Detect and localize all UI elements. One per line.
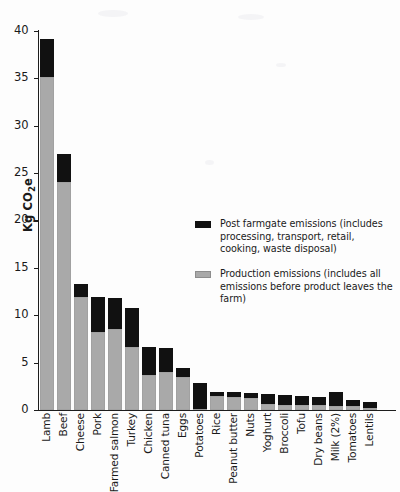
segment-production: [210, 396, 224, 410]
segment-post-farmgate: [329, 392, 343, 406]
x-tick-label: Dry beans: [313, 413, 324, 466]
chart-legend: Post farmgate emissions (includes proces…: [195, 218, 395, 318]
bar-canned-tuna: [159, 31, 173, 410]
x-tick-label: Eggs: [177, 413, 188, 438]
segment-post-farmgate: [312, 397, 326, 406]
y-tick-label: 10: [14, 310, 28, 322]
segment-post-farmgate: [142, 347, 156, 375]
segment-production: [57, 182, 71, 410]
x-tick-label: Yoghurt: [262, 413, 273, 452]
segment-production: [125, 347, 139, 410]
y-tick-label: 20: [14, 215, 28, 227]
legend-label-production: Production emissions (includes all emiss…: [220, 268, 395, 306]
segment-post-farmgate: [346, 400, 360, 407]
x-tick-label: Lamb: [41, 413, 52, 442]
bar-beef: [57, 31, 71, 410]
segment-production: [193, 409, 207, 410]
x-tick-label: Nuts: [245, 413, 256, 437]
segment-post-farmgate: [125, 308, 139, 348]
segment-post-farmgate: [74, 284, 88, 297]
scan-artifact: [238, 14, 264, 20]
legend-item-post-farmgate: Post farmgate emissions (includes proces…: [195, 218, 395, 256]
x-tick-label: Broccoli: [279, 413, 290, 454]
y-tick-label: 5: [21, 357, 28, 369]
x-tick-label: Chicken: [143, 413, 154, 454]
legend-swatch-production: [195, 271, 211, 278]
bar-cheese: [74, 31, 88, 410]
segment-production: [159, 372, 173, 410]
scan-artifact: [98, 10, 128, 17]
segment-production: [74, 297, 88, 410]
bar-chicken: [142, 31, 156, 410]
segment-production: [142, 375, 156, 410]
segment-production: [278, 405, 292, 410]
x-tick-label: Farmed salmon: [109, 413, 120, 492]
segment-production: [363, 408, 377, 410]
segment-production: [227, 397, 241, 410]
segment-production: [108, 329, 122, 410]
legend-item-production: Production emissions (includes all emiss…: [195, 268, 395, 306]
x-tick-label: Lentils: [364, 413, 375, 446]
segment-production: [176, 377, 190, 410]
x-tick-label: Milk (2%): [330, 413, 341, 461]
segment-production: [312, 405, 326, 410]
x-tick-label: Canned tuna: [160, 413, 171, 479]
segment-post-farmgate: [40, 39, 54, 78]
bar-turkey: [125, 31, 139, 410]
segment-post-farmgate: [261, 394, 275, 404]
segment-post-farmgate: [108, 298, 122, 329]
legend-swatch-post-farmgate: [195, 221, 211, 228]
bar-lamb: [40, 31, 54, 410]
legend-label-post-farmgate: Post farmgate emissions (includes proces…: [220, 218, 395, 256]
segment-post-farmgate: [193, 383, 207, 409]
bar-eggs: [176, 31, 190, 410]
segment-post-farmgate: [91, 297, 105, 332]
x-tick-label: Peanut butter: [228, 413, 239, 484]
y-tick-label: 0: [21, 404, 28, 416]
x-tick-label: Rice: [211, 413, 222, 435]
x-tick-label: Potatoes: [194, 413, 205, 458]
segment-production: [244, 398, 258, 410]
x-tick-label: Turkey: [126, 413, 137, 447]
y-tick-label: 30: [14, 120, 28, 132]
x-tick-label: Tofu: [296, 413, 307, 434]
segment-production: [261, 404, 275, 410]
x-tick-label: Beef: [58, 413, 69, 436]
y-tick-label: 15: [14, 262, 28, 274]
bar-farmed-salmon: [108, 31, 122, 410]
segment-production: [40, 77, 54, 410]
segment-production: [346, 406, 360, 410]
x-tick-label: Cheese: [75, 413, 86, 451]
y-tick-label: 35: [14, 72, 28, 84]
x-tick-label: Tomatoes: [347, 413, 358, 462]
segment-production: [91, 332, 105, 410]
y-tick-label: 40: [14, 25, 28, 37]
x-tick-label: Pork: [92, 413, 103, 435]
y-tick-label: 25: [14, 167, 28, 179]
segment-post-farmgate: [295, 396, 309, 405]
segment-post-farmgate: [176, 368, 190, 377]
bar-pork: [91, 31, 105, 410]
segment-post-farmgate: [278, 395, 292, 405]
segment-production: [295, 405, 309, 410]
segment-post-farmgate: [159, 348, 173, 372]
segment-post-farmgate: [57, 154, 71, 181]
segment-production: [329, 406, 343, 410]
